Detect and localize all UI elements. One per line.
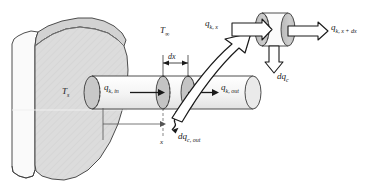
x-axis-label: x [159,138,164,146]
detail-convection-label: dqc [277,71,289,83]
convection-out-label: dqc, out [178,131,201,143]
fin-tip-cap [245,76,261,109]
wall-left-face [12,31,38,178]
ambient-temperature-label: T∞ [160,25,170,37]
detail-conduction-out-label: qk, x + dx [331,22,357,34]
detail-convection-arrow [265,46,283,73]
figure-container: Ts qk, in [0,0,371,183]
dx-label: dx [168,52,176,61]
fin-diagram-svg: Ts qk, in [0,0,371,183]
detail-conduction-in-label: qk, x [205,18,218,30]
